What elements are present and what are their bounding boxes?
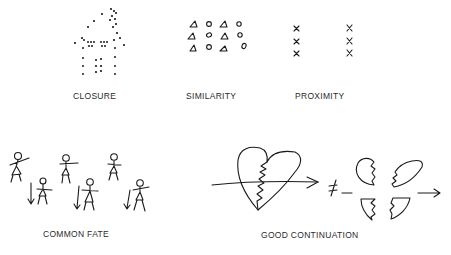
similarity-grid (188, 21, 247, 51)
label-common-fate: COMMON FATE (43, 229, 109, 239)
label-similarity: SIMILARITY (186, 91, 236, 101)
label-closure: CLOSURE (73, 91, 116, 101)
good-continuation-figure (212, 147, 440, 220)
proximity-marks (294, 25, 352, 56)
common-fate-figures (10, 153, 149, 212)
gestalt-diagram (0, 0, 451, 255)
label-good-continuation: GOOD CONTINUATION (261, 230, 359, 240)
closure-house-dots (74, 8, 125, 75)
label-proximity: PROXIMITY (295, 91, 344, 101)
